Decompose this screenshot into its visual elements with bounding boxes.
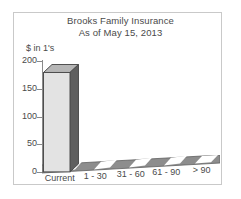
- bar-side-face: [70, 65, 78, 172]
- plot-area: 200150100500 180 Current1 - 3031 - 6061 …: [0, 0, 241, 199]
- y-tick-label: 150: [7, 84, 37, 93]
- bar-svg: [43, 64, 83, 174]
- chart-container: Brooks Family Insurance As of May 15, 20…: [0, 0, 241, 199]
- y-tick-label: 200: [7, 56, 37, 65]
- y-tick-label: 100: [7, 112, 37, 121]
- bar-current[interactable]: 180: [43, 64, 83, 172]
- bar-front-face: [44, 73, 70, 172]
- y-tick-label: 50: [7, 139, 37, 148]
- x-tick-label: > 90: [175, 165, 229, 175]
- y-tick-mark: [37, 61, 43, 62]
